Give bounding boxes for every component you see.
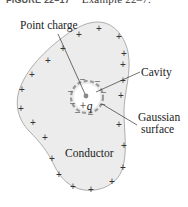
svg-text:–: –	[95, 76, 100, 86]
cavity-label: Cavity	[141, 66, 172, 79]
svg-text:–: –	[68, 86, 73, 96]
point-charge-dot	[84, 94, 89, 99]
svg-text:+: +	[109, 176, 115, 187]
conductor-label: Conductor	[65, 147, 114, 159]
conductor-diagram: +q – – – – – – – – + + + + + + + + + + +…	[0, 0, 188, 207]
svg-text:+: +	[118, 90, 124, 101]
svg-text:–: –	[75, 107, 80, 117]
svg-text:+: +	[45, 55, 51, 66]
svg-text:+: +	[42, 132, 48, 143]
svg-text:–: –	[80, 74, 85, 84]
svg-text:+: +	[88, 184, 94, 195]
svg-text:+: +	[70, 181, 76, 192]
gaussian-label-line1: Gaussian	[138, 111, 180, 123]
svg-text:+: +	[49, 153, 55, 164]
svg-text:+: +	[116, 119, 122, 130]
svg-text:+: +	[18, 103, 24, 114]
point-charge-label: Point charge	[20, 19, 78, 32]
svg-text:+: +	[121, 48, 127, 59]
svg-text:+: +	[19, 84, 25, 95]
svg-text:+: +	[96, 23, 102, 34]
gaussian-label-line2: surface	[141, 123, 174, 135]
svg-text:+: +	[121, 140, 127, 151]
svg-text:+: +	[120, 59, 126, 70]
svg-text:+: +	[120, 162, 126, 173]
svg-text:+: +	[56, 169, 62, 180]
svg-text:+: +	[116, 31, 122, 42]
svg-text:+: +	[29, 69, 35, 80]
svg-text:–: –	[88, 109, 93, 119]
svg-text:+: +	[30, 117, 36, 128]
